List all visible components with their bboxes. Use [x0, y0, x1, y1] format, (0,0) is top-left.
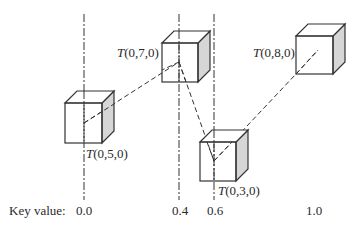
cube-keyframe-1 — [162, 31, 210, 82]
cube-keyframe-2 — [200, 130, 248, 181]
key-tick-0: 0.0 — [76, 203, 92, 218]
keyframe-label-1: T(0,7,0) — [117, 45, 159, 60]
keyframe-label-3: T(0,8,0) — [253, 45, 295, 60]
keyframe-label-0: T(0,5,0) — [86, 146, 128, 161]
key-value-label: Key value: — [9, 203, 66, 218]
key-tick-3: 1.0 — [306, 203, 322, 218]
keyframe-label-2: T(0,3,0) — [218, 183, 260, 198]
cube-keyframe-0 — [65, 91, 114, 143]
keyframe-interpolation-diagram: T(0,5,0) T(0,7,0) T(0,3,0) T(0,8,0) Key … — [0, 0, 355, 228]
key-tick-2: 0.6 — [207, 203, 224, 218]
key-tick-1: 0.4 — [172, 203, 189, 218]
